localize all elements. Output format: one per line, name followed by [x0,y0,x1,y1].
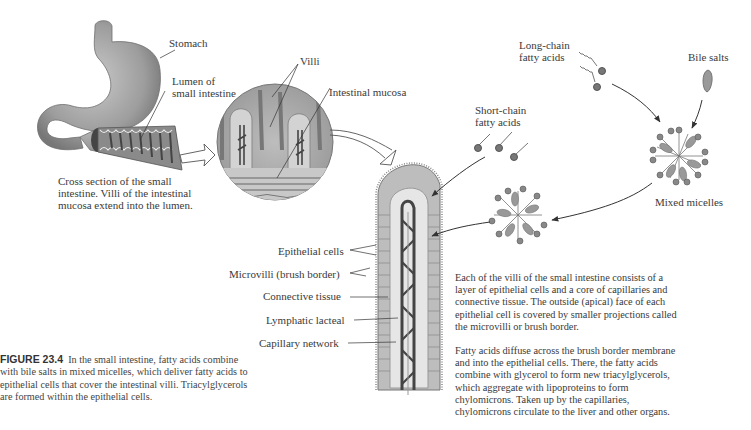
para2-line: Fatty acids diffuse across the brush bor… [455,345,675,357]
label-epithelial-cells: Epithelial cells [278,245,344,258]
para2-line: and into the epithelial cells. There, th… [455,357,675,369]
figure-caption: FIGURE 23.4 In the small intestine, fatt… [0,353,258,404]
mixed-micelle-icon [650,127,708,185]
label-capillary-network: Capillary network [259,337,339,350]
mixed-micelle-small-icon [489,186,547,244]
label-lumen-line1: Lumen of [172,75,215,88]
label-stomach: Stomach [169,37,208,50]
figure-number: FIGURE 23.4 [0,353,63,365]
label-long-chain-1: Long-chain [519,39,570,52]
label-intestinal-mucosa: Intestinal mucosa [329,86,406,99]
label-villi: Villi [300,55,320,68]
para1-line: connective tissue. The outside (apical) … [455,296,677,308]
label-cross-section-1: Cross section of the small [58,175,172,188]
label-microvilli: Microvilli (brush border) [229,268,340,281]
para2-line: chylomicrons circulate to the liver and … [455,406,675,418]
label-lymphatic-lacteal: Lymphatic lacteal [266,314,345,327]
label-cross-section-3: mucosa extend into the lumen. [58,199,193,212]
para1-line: epithelial cell is covered by smaller pr… [455,309,677,321]
label-long-chain-2: fatty acids [519,51,565,64]
intestine-cross-section [80,126,215,170]
paragraph-fatty-acid-absorption: Fatty acids diffuse across the brush bor… [455,345,675,418]
label-short-chain-2: fatty acids [475,116,521,129]
label-lumen-line2: small intestine [172,87,236,100]
label-connective-tissue: Connective tissue [263,290,341,303]
short-chain-fatty-acids-icon [432,132,528,196]
para2-line: which aggregate with lipoproteins to for… [455,382,675,394]
para2-line: chylomicrons. Taken up by the capillarie… [455,394,675,406]
long-chain-fatty-acids-icon [579,52,660,122]
para1-line: Each of the villi of the small intestine… [455,272,677,284]
para1-line: the microvilli or brush border. [455,321,677,333]
label-short-chain-1: Short-chain [475,104,526,117]
micelle-to-villus-arrow [432,222,490,236]
para2-line: combine with glycerol to form new triacy… [455,369,675,381]
label-bile-salts: Bile salts [688,51,729,64]
bile-salt-icon [692,70,712,128]
micelle-arrow [552,183,652,220]
para1-line: layer of epithelial cells and a core of … [455,284,677,296]
villus-detail [376,163,442,395]
label-mixed-micelles: Mixed micelles [655,196,723,209]
label-cross-section-2: intestine. Villi of the intestinal [58,187,191,200]
paragraph-villi-structure: Each of the villi of the small intestine… [455,272,677,333]
